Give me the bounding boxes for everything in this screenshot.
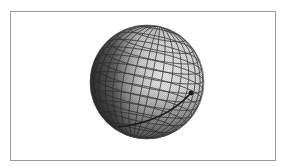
sphere-diagram [0,0,287,167]
diagram-canvas [0,0,287,167]
trajectory-endpoint-dot [189,91,194,96]
